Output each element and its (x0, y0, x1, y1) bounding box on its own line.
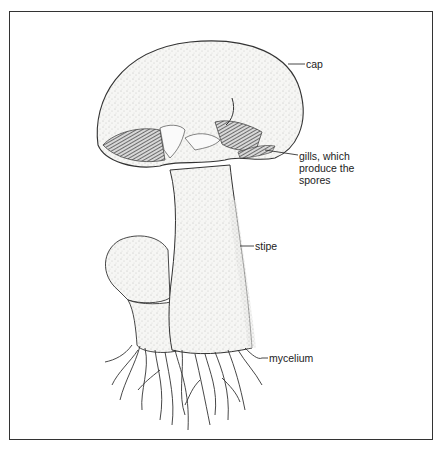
mushroom-illustration (0, 0, 442, 456)
cap (97, 41, 303, 167)
mycelium (105, 345, 262, 430)
label-gills: gills, which produce the spores (299, 150, 354, 186)
button-mushroom (105, 236, 180, 353)
label-stipe: stipe (255, 240, 277, 252)
label-cap: cap (306, 58, 323, 70)
stipe (169, 165, 252, 354)
label-mycelium: mycelium (269, 352, 313, 364)
